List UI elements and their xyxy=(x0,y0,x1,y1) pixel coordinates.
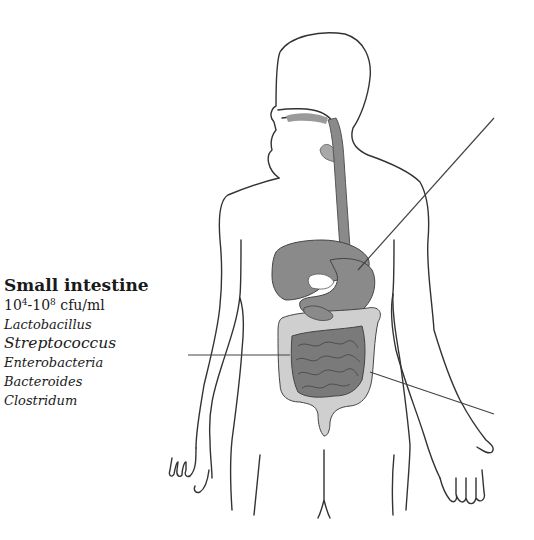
organism-streptococcus: Streptococcus xyxy=(4,334,149,353)
organism-bacteroides: Bacteroides xyxy=(4,372,149,391)
annotation-title: Small intestine xyxy=(4,274,149,296)
organism-clostridum: Clostridum xyxy=(4,391,149,410)
small-intestine-annotation: Small intestine 104-108 cfu/ml Lactobaci… xyxy=(4,274,149,410)
organism-enterobacteria: Enterobacteria xyxy=(4,353,149,372)
colon-pointer-line xyxy=(370,372,494,414)
digestive-system-diagram xyxy=(0,0,534,540)
stomach-pointer-line xyxy=(358,118,494,270)
organism-lactobacillus: Lactobacillus xyxy=(4,315,149,334)
bacterial-count: 104-108 cfu/ml xyxy=(4,296,149,315)
esophagus xyxy=(286,113,350,248)
